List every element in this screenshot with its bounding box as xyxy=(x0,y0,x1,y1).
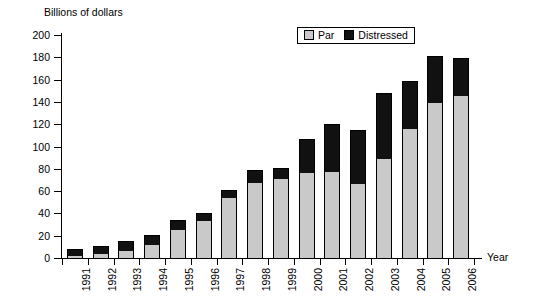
x-tick-label-2004: 2004 xyxy=(415,268,427,291)
x-axis-line xyxy=(61,258,482,259)
bar-segment-par-2000 xyxy=(299,173,315,258)
bar-segment-distressed-2001 xyxy=(324,124,340,172)
y-tick-label-60: 60 xyxy=(0,185,50,197)
y-tick-label-80: 80 xyxy=(0,163,50,175)
y-tick-label-140: 140 xyxy=(0,96,50,108)
bar-group-2006 xyxy=(453,58,469,258)
y-tick-label-0: 0 xyxy=(0,252,50,264)
stacked-bar-chart: Billions of dollars 02040608010012014016… xyxy=(0,0,538,304)
bar-segment-par-2001 xyxy=(324,172,340,258)
x-tick-origin xyxy=(62,259,63,265)
y-tick-120 xyxy=(54,124,61,125)
bar-group-1997 xyxy=(221,190,237,258)
y-tick-100 xyxy=(54,147,61,148)
x-tick-1991 xyxy=(88,259,89,265)
x-tick-1993 xyxy=(139,259,140,265)
x-tick-label-2003: 2003 xyxy=(389,268,401,291)
bar-segment-par-1999 xyxy=(273,179,289,258)
bar-group-2003 xyxy=(376,93,392,258)
distressed-swatch-icon xyxy=(344,30,354,40)
bar-segment-distressed-1994 xyxy=(144,235,160,245)
bar-segment-par-1996 xyxy=(196,221,212,258)
bar-segment-par-2005 xyxy=(427,103,443,258)
y-tick-200 xyxy=(54,35,61,36)
bar-segment-par-1991 xyxy=(67,256,83,258)
x-tick-label-1991: 1991 xyxy=(80,268,92,291)
x-tick-label-1998: 1998 xyxy=(260,268,272,291)
x-tick-label-2005: 2005 xyxy=(440,268,452,291)
bar-segment-par-2006 xyxy=(453,96,469,258)
bar-segment-distressed-1999 xyxy=(273,168,289,179)
x-tick-label-2001: 2001 xyxy=(337,268,349,291)
legend-label-distressed: Distressed xyxy=(358,30,408,41)
y-tick-20 xyxy=(54,236,61,237)
x-tick-label-1995: 1995 xyxy=(183,268,195,291)
x-tick-label-2000: 2000 xyxy=(312,268,324,291)
x-tick-label-1997: 1997 xyxy=(234,268,246,291)
y-tick-label-120: 120 xyxy=(0,118,50,130)
x-tick-2002 xyxy=(371,259,372,265)
y-tick-40 xyxy=(54,213,61,214)
legend-item-distressed: Distressed xyxy=(344,30,408,41)
x-tick-label-1994: 1994 xyxy=(157,268,169,291)
bar-segment-distressed-2004 xyxy=(402,81,418,129)
x-tick-2005 xyxy=(448,259,449,265)
bar-segment-par-1995 xyxy=(170,230,186,258)
bar-group-1994 xyxy=(144,235,160,258)
bar-group-2000 xyxy=(299,139,315,258)
bar-group-2004 xyxy=(402,81,418,258)
bar-segment-par-1994 xyxy=(144,245,160,258)
bar-segment-distressed-1993 xyxy=(118,241,134,251)
x-tick-2001 xyxy=(345,259,346,265)
bar-segment-distressed-1995 xyxy=(170,220,186,230)
x-tick-label-1992: 1992 xyxy=(106,268,118,291)
x-tick-label-1993: 1993 xyxy=(131,268,143,291)
bar-group-1993 xyxy=(118,241,134,258)
y-tick-180 xyxy=(54,57,61,58)
y-tick-140 xyxy=(54,102,61,103)
bar-group-1998 xyxy=(247,170,263,258)
bar-segment-par-2004 xyxy=(402,129,418,258)
bar-segment-par-1993 xyxy=(118,251,134,258)
par-swatch-icon xyxy=(304,30,314,40)
plot-area xyxy=(62,35,474,258)
bar-group-2005 xyxy=(427,56,443,258)
bar-segment-par-1998 xyxy=(247,183,263,258)
y-tick-label-20: 20 xyxy=(0,230,50,242)
x-tick-1998 xyxy=(268,259,269,265)
x-tick-2000 xyxy=(320,259,321,265)
bar-segment-distressed-2002 xyxy=(350,130,366,185)
bar-group-1999 xyxy=(273,168,289,258)
bar-segment-distressed-1998 xyxy=(247,170,263,183)
bar-segment-par-2003 xyxy=(376,159,392,258)
y-tick-label-180: 180 xyxy=(0,51,50,63)
y-tick-label-160: 160 xyxy=(0,74,50,86)
bar-segment-distressed-2005 xyxy=(427,56,443,103)
bar-group-1996 xyxy=(196,213,212,258)
bar-group-1995 xyxy=(170,220,186,258)
x-axis-title: Year xyxy=(487,251,508,263)
y-axis-title: Billions of dollars xyxy=(44,6,123,18)
bar-segment-distressed-2000 xyxy=(299,139,315,174)
bar-segment-distressed-2006 xyxy=(453,58,469,96)
bar-segment-distressed-1997 xyxy=(221,190,237,198)
bar-group-2002 xyxy=(350,130,366,258)
y-tick-label-40: 40 xyxy=(0,207,50,219)
x-tick-1999 xyxy=(294,259,295,265)
x-tick-2003 xyxy=(397,259,398,265)
x-tick-1996 xyxy=(217,259,218,265)
x-tick-2006 xyxy=(474,259,475,265)
y-tick-80 xyxy=(54,169,61,170)
bar-segment-par-1997 xyxy=(221,198,237,258)
y-tick-160 xyxy=(54,80,61,81)
legend-label-par: Par xyxy=(318,30,334,41)
bar-group-2001 xyxy=(324,124,340,258)
x-tick-label-2002: 2002 xyxy=(363,268,375,291)
x-tick-label-1999: 1999 xyxy=(286,268,298,291)
y-tick-label-200: 200 xyxy=(0,29,50,41)
x-tick-1997 xyxy=(242,259,243,265)
chart-legend: Par Distressed xyxy=(297,27,415,44)
x-tick-1994 xyxy=(165,259,166,265)
bar-segment-par-2002 xyxy=(350,184,366,258)
y-tick-0 xyxy=(54,258,61,259)
